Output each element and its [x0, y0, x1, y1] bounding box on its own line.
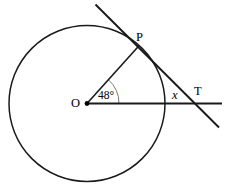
- geometry-figure: O P T x 48°: [0, 0, 229, 187]
- label-angle-48-degrees: 48°: [98, 90, 114, 102]
- center-point-dot: [85, 101, 90, 106]
- tangent-line-at-P: [96, 5, 220, 128]
- label-intersection-t: T: [194, 85, 202, 98]
- label-center-o: O: [71, 97, 80, 110]
- label-unknown-angle-x: x: [172, 89, 178, 102]
- label-tangent-point-p: P: [136, 31, 143, 44]
